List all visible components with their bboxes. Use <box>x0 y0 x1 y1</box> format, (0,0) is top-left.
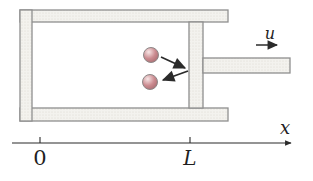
piston-position-label: L <box>182 146 196 170</box>
gas-molecule-top <box>144 48 159 63</box>
piston-rod <box>203 58 290 73</box>
piston-cylinder-figure: u 0 L x <box>0 0 313 181</box>
piston-face <box>189 22 203 108</box>
gas-molecule-bottom <box>143 75 158 90</box>
cylinder-left-wall <box>20 10 32 121</box>
cylinder-top-wall <box>20 10 228 22</box>
x-axis-label: x <box>280 117 290 138</box>
molecule-reflected-arrow <box>163 71 188 80</box>
piston-velocity-label: u <box>265 24 275 43</box>
origin-label: 0 <box>33 146 46 170</box>
cylinder-bottom-wall <box>20 108 228 121</box>
figure-canvas: u 0 L x <box>0 0 313 181</box>
molecule-incident-arrow <box>161 57 185 68</box>
